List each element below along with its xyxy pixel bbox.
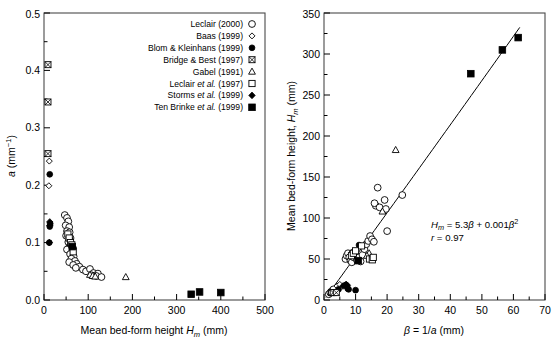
right-ytick-2: 100 xyxy=(302,212,320,224)
legend-label-7: Ten Brinke et al. (1999) xyxy=(154,102,243,112)
data-point-filled-square-icon xyxy=(515,34,522,41)
data-point-crossed-square-icon xyxy=(45,99,51,105)
legend-open-square-icon xyxy=(249,80,255,86)
figure-container: 0.0 0.1 0.2 0.3 0.4 0.5 0 100 200 300 40… xyxy=(0,0,557,347)
legend-crossed-square-icon xyxy=(249,57,255,63)
right-ytick-0: 0 xyxy=(314,294,320,306)
left-xtick-0: 0 xyxy=(41,304,47,316)
right-xtick-2: 20 xyxy=(381,304,393,316)
scatter-figure-svg: 0.0 0.1 0.2 0.3 0.4 0.5 0 100 200 300 40… xyxy=(0,0,557,347)
legend-open-circle-icon xyxy=(249,21,256,28)
legend-filled-square-icon xyxy=(249,104,256,111)
left-ytick-4: 0.4 xyxy=(25,64,40,76)
right-ytick-6: 300 xyxy=(302,48,320,60)
legend-label-1: Baas (1999) xyxy=(196,31,243,41)
left-y-axis-label: a (mm−1) xyxy=(4,135,17,177)
legend-filled-circle-icon xyxy=(249,45,255,51)
data-point-filled-square-icon xyxy=(69,243,76,250)
right-ytick-7: 350 xyxy=(302,8,320,20)
right-ytick-1: 50 xyxy=(308,253,320,265)
data-point-filled-square-icon xyxy=(468,70,475,77)
legend-label-2: Blom & Kleinhans (1999) xyxy=(148,43,243,53)
right-x-tick-labels: 0 10 20 30 40 50 60 70 xyxy=(321,304,551,316)
left-xtick-3: 300 xyxy=(168,304,186,316)
left-xtick-5: 500 xyxy=(256,304,274,316)
legend-label-5: Leclair et al. (1997) xyxy=(169,79,243,89)
right-ytick-4: 200 xyxy=(302,130,320,142)
left-y-tick-labels: 0.0 0.1 0.2 0.3 0.4 0.5 xyxy=(25,8,40,306)
data-point-filled-square-icon xyxy=(188,291,195,298)
right-ytick-3: 150 xyxy=(302,171,320,183)
legend-label-4: Gabel (1991) xyxy=(193,67,243,77)
left-ytick-0: 0.0 xyxy=(25,294,40,306)
data-point-open-square-icon xyxy=(370,254,376,260)
data-point-open-circle-icon xyxy=(72,264,79,271)
data-point-open-circle-icon xyxy=(370,238,377,245)
data-point-filled-circle-icon xyxy=(353,287,359,293)
left-ytick-1: 0.1 xyxy=(25,236,40,248)
left-xtick-4: 400 xyxy=(212,304,230,316)
right-panel: 0 50 100 150 200 250 300 350 0 10 20 30 … xyxy=(285,8,551,337)
data-point-open-circle-icon xyxy=(374,184,381,191)
left-ytick-5: 0.5 xyxy=(25,8,40,20)
left-xtick-2: 200 xyxy=(124,304,142,316)
legend-label-6: Storms et al. (1999) xyxy=(168,90,244,100)
data-point-open-circle-icon xyxy=(399,192,406,199)
regression-correlation: r = 0.97 xyxy=(431,232,464,243)
data-point-filled-square-icon xyxy=(355,257,362,264)
data-point-crossed-square-icon xyxy=(45,151,51,157)
data-point-filled-square-icon xyxy=(218,289,225,296)
right-xtick-7: 70 xyxy=(539,304,551,316)
data-point-crossed-square-icon xyxy=(333,290,339,296)
data-point-filled-square-icon xyxy=(196,289,203,296)
series-crossed-square-icon xyxy=(329,290,340,296)
regression-equation: Hm = 5.3β + 0.001β2 xyxy=(431,217,518,232)
left-xtick-1: 100 xyxy=(79,304,97,316)
right-xtick-0: 0 xyxy=(321,304,327,316)
right-y-axis-label: Mean bed-form height, Hm (mm) xyxy=(285,81,300,231)
data-point-open-square-icon xyxy=(358,243,364,249)
data-point-open-circle-icon xyxy=(381,197,388,204)
left-panel: 0.0 0.1 0.2 0.3 0.4 0.5 0 100 200 300 40… xyxy=(4,8,274,339)
legend-label-3: Bridge & Best (1997) xyxy=(163,55,243,65)
left-ytick-2: 0.2 xyxy=(25,179,40,191)
right-xtick-1: 10 xyxy=(350,304,362,316)
left-x-axis-label: Mean bed-form height Hm (mm) xyxy=(81,324,228,339)
data-point-open-circle-icon xyxy=(384,228,391,235)
left-ytick-3: 0.3 xyxy=(25,121,40,133)
right-x-axis-label: β = 1/a (mm) xyxy=(403,324,464,336)
right-ytick-5: 250 xyxy=(302,89,320,101)
right-xtick-4: 40 xyxy=(444,304,456,316)
right-xtick-3: 30 xyxy=(413,304,425,316)
right-xtick-5: 50 xyxy=(476,304,488,316)
right-y-tick-labels: 0 50 100 150 200 250 300 350 xyxy=(302,8,320,306)
data-point-crossed-square-icon xyxy=(45,62,51,68)
data-point-open-square-icon xyxy=(352,248,358,254)
data-point-filled-circle-icon xyxy=(47,171,53,177)
legend-label-0: Leclair (2000) xyxy=(190,19,243,29)
left-x-tick-labels: 0 100 200 300 400 500 xyxy=(41,304,274,316)
right-xtick-6: 60 xyxy=(508,304,520,316)
data-point-filled-square-icon xyxy=(499,47,506,54)
